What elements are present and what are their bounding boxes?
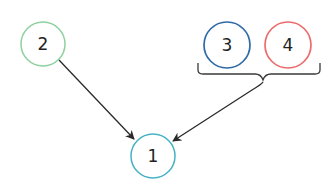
diagram-canvas: 2 3 4 1 [0, 0, 334, 189]
node-3[interactable]: 3 [204, 22, 250, 68]
edge-2-to-1 [59, 60, 134, 139]
node-4[interactable]: 4 [265, 22, 311, 68]
node-2-label: 2 [38, 34, 49, 54]
node-1-label: 1 [148, 146, 159, 166]
node-3-label: 3 [222, 35, 233, 55]
edge-group-to-1 [173, 82, 263, 141]
node-1[interactable]: 1 [131, 134, 175, 178]
node-2[interactable]: 2 [21, 22, 65, 66]
node-4-label: 4 [283, 35, 294, 55]
